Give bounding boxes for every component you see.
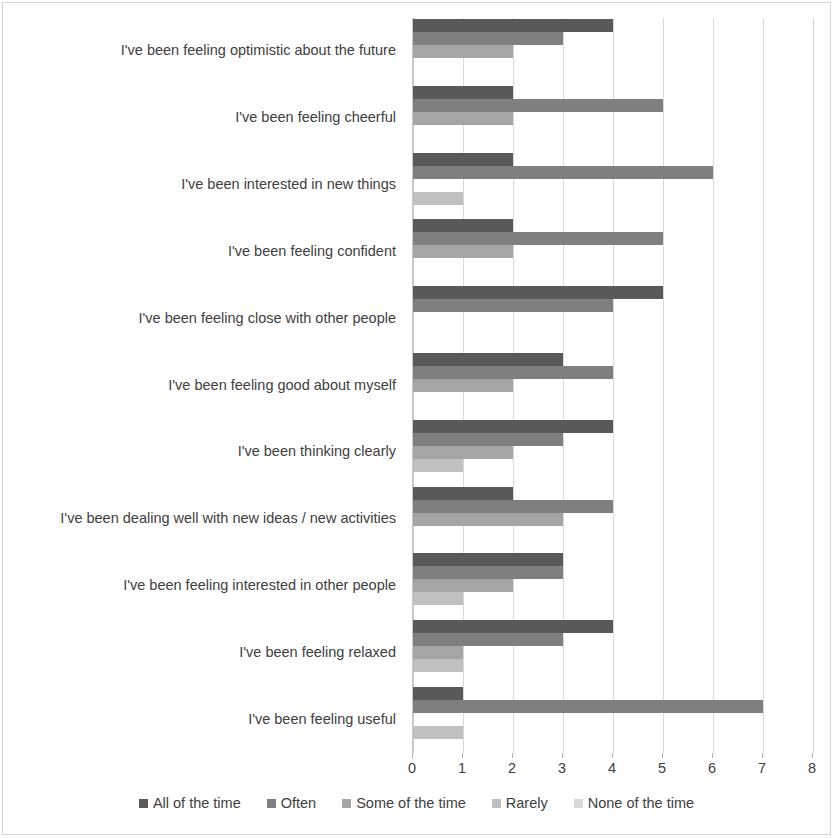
bar[interactable] (413, 299, 613, 312)
bar[interactable] (413, 633, 563, 646)
bar[interactable] (413, 726, 463, 739)
category-label: I've been dealing well with new ideas / … (0, 510, 404, 527)
legend-item[interactable]: None of the time (574, 795, 694, 811)
bar[interactable] (413, 446, 513, 459)
category-label: I've been feeling good about myself (0, 377, 404, 394)
legend-label: Often (281, 795, 316, 811)
axis-tick-label: 5 (642, 760, 682, 776)
bar[interactable] (413, 687, 463, 700)
bar[interactable] (413, 500, 613, 513)
category-label: I've been thinking clearly (0, 443, 404, 460)
legend-label: None of the time (588, 795, 694, 811)
axis-tick (412, 753, 413, 758)
bar[interactable] (413, 646, 463, 659)
bar-group (413, 219, 813, 284)
bar[interactable] (413, 433, 563, 446)
plot-area (412, 18, 812, 753)
axis-tick-label: 3 (542, 760, 582, 776)
bar[interactable] (413, 232, 663, 245)
legend-swatch-icon (574, 799, 583, 808)
axis-tick (662, 753, 663, 758)
bar[interactable] (413, 86, 513, 99)
legend-swatch-icon (139, 799, 148, 808)
legend: All of the timeOftenSome of the timeRare… (0, 795, 833, 811)
bar[interactable] (413, 566, 563, 579)
bar[interactable] (413, 112, 513, 125)
category-label: I've been feeling cheerful (0, 109, 404, 126)
bar-group (413, 620, 813, 685)
legend-swatch-icon (342, 799, 351, 808)
bar[interactable] (413, 32, 563, 45)
bar-group (413, 487, 813, 552)
axis-tick (762, 753, 763, 758)
axis-tick-label: 6 (692, 760, 732, 776)
legend-label: Rarely (506, 795, 548, 811)
legend-swatch-icon (492, 799, 501, 808)
legend-label: Some of the time (356, 795, 466, 811)
axis-tick-label: 4 (592, 760, 632, 776)
category-label: I've been feeling interested in other pe… (0, 577, 404, 594)
legend-swatch-icon (267, 799, 276, 808)
category-label: I've been feeling useful (0, 711, 404, 728)
bar[interactable] (413, 286, 663, 299)
bar[interactable] (413, 153, 513, 166)
category-label: I've been feeling close with other peopl… (0, 310, 404, 327)
axis-tick-label: 8 (792, 760, 832, 776)
category-label: I've been feeling relaxed (0, 644, 404, 661)
bar[interactable] (413, 19, 613, 32)
bar-group (413, 353, 813, 418)
axis-tick-label: 0 (392, 760, 432, 776)
bar[interactable] (413, 379, 513, 392)
category-label: I've been interested in new things (0, 176, 404, 193)
bar-group (413, 553, 813, 618)
axis-tick-label: 1 (442, 760, 482, 776)
bar[interactable] (413, 487, 513, 500)
bar[interactable] (413, 99, 663, 112)
bar-group (413, 420, 813, 485)
bar-group (413, 286, 813, 351)
axis-tick (462, 753, 463, 758)
legend-label: All of the time (153, 795, 241, 811)
axis-tick-label: 2 (492, 760, 532, 776)
bar[interactable] (413, 45, 513, 58)
legend-item[interactable]: Some of the time (342, 795, 466, 811)
axis-tick (712, 753, 713, 758)
bar[interactable] (413, 420, 613, 433)
bar-group (413, 86, 813, 151)
bar-group (413, 153, 813, 218)
chart-page: I've been feeling optimistic about the f… (0, 0, 833, 838)
axis-tick (512, 753, 513, 758)
bar[interactable] (413, 245, 513, 258)
category-label: I've been feeling optimistic about the f… (0, 42, 404, 59)
bar[interactable] (413, 659, 463, 672)
axis-tick (612, 753, 613, 758)
axis-tick (812, 753, 813, 758)
legend-item[interactable]: Rarely (492, 795, 548, 811)
bar[interactable] (413, 620, 613, 633)
bar[interactable] (413, 592, 463, 605)
legend-item[interactable]: Often (267, 795, 316, 811)
category-label: I've been feeling confident (0, 243, 404, 260)
bar[interactable] (413, 366, 613, 379)
bar[interactable] (413, 166, 713, 179)
bar[interactable] (413, 553, 563, 566)
bar[interactable] (413, 353, 563, 366)
bar[interactable] (413, 192, 463, 205)
bar[interactable] (413, 459, 463, 472)
axis-tick-label: 7 (742, 760, 782, 776)
axis-tick (562, 753, 563, 758)
bar-group (413, 687, 813, 752)
bar[interactable] (413, 579, 513, 592)
gridline-8 (813, 18, 814, 753)
legend-item[interactable]: All of the time (139, 795, 241, 811)
bar-group (413, 19, 813, 84)
bar[interactable] (413, 513, 563, 526)
bar[interactable] (413, 700, 763, 713)
bar[interactable] (413, 219, 513, 232)
